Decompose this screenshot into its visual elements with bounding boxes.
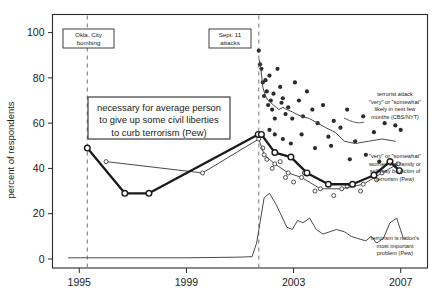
data-point-open [146,191,152,197]
data-point-filled [310,107,314,111]
data-point-filled [281,96,285,100]
y-tick-label: 100 [27,26,45,38]
data-point-filled [329,144,333,148]
data-point-open [286,171,290,175]
data-point-filled [266,103,270,107]
series-annotation: terrorism is nation'smost importantprobl… [371,235,420,256]
y-tick-label: 80 [33,72,45,84]
data-point-filled [383,121,387,125]
data-point-open [292,180,296,184]
data-point-open [85,145,91,151]
data-point-filled [313,146,317,150]
series-layer [69,49,404,258]
event-marker-lines [87,16,258,268]
series-annotation-line: most important [377,243,414,249]
data-point-open [304,170,310,176]
data-point-filled [326,135,330,139]
data-point-filled [278,85,282,89]
data-point-open [318,187,322,191]
data-point-filled [267,128,271,132]
annotation-leader-line [344,118,364,123]
x-tick-label: 1999 [175,276,199,288]
data-point-open [273,162,277,166]
callout-line: to curb terrorism (Pew) [111,127,206,138]
chart-figure: 020406080100 1995199920032007 percent of… [0,0,439,295]
series-annotation-line: months (CBS/NYT) [371,114,419,120]
x-tick-label: 1995 [68,276,92,288]
series-annotation-line: problem (Pew) [377,250,414,256]
data-point-open [313,189,317,193]
series-annotation-line: self may be victim of [370,168,421,174]
data-point-open [350,181,356,187]
data-point-filled [399,128,403,132]
data-point-filled [300,132,304,136]
data-point-filled [297,98,301,102]
data-point-open [262,153,266,157]
data-point-filled [372,130,376,134]
event-marker-box: Okla. Citybombing [63,29,114,48]
event-marker-boxes: Okla. CitybombingSept. 11attacks [63,29,251,48]
event-label-line1: Okla. City [75,31,103,38]
data-point-filled [290,117,294,121]
data-point-filled [293,80,297,84]
series-annotation-line: terrorist attack [377,91,413,97]
data-point-open [332,194,336,198]
y-tick-label: 60 [33,117,45,129]
data-point-filled [286,105,290,109]
data-point-open [361,182,365,186]
data-point-filled [283,112,287,116]
y-tick-label: 40 [33,162,45,174]
data-point-filled [265,89,269,93]
series-annotation-line: "very" or "somewhat" [369,99,421,105]
x-tick-label: 2003 [282,276,306,288]
series-annotation-line: likely in next few [375,106,417,112]
chart-canvas: 020406080100 1995199920032007 percent of… [0,0,439,295]
data-point-filled [271,92,275,96]
callout-line: to give up some civil liberties [99,114,219,125]
data-point-filled [348,157,352,161]
data-point-filled [338,126,342,130]
data-point-filled [332,119,336,123]
event-label-line2: attacks [220,39,240,46]
data-point-filled [275,67,279,71]
data-point-filled [364,153,368,157]
y-axis-label: percent of respondents [5,101,16,198]
data-point-open [201,171,205,175]
y-tick-label: 0 [39,253,45,265]
series-annotation-line: "very" or "somewhat" [369,153,421,159]
data-point-open [300,175,304,179]
event-label-line2: bombing [77,39,101,46]
data-point-open [259,132,265,138]
data-point-filled [289,141,293,145]
series-annotations: terrorist attack"very" or "somewhat"like… [344,91,421,256]
data-point-filled [279,101,283,105]
y-axis-ticks: 020406080100 [27,26,53,264]
data-point-filled [273,132,277,136]
series-annotation-line: worried that family or [368,161,421,167]
data-point-open [270,166,274,170]
data-point-filled [305,89,309,93]
data-point-open [122,191,128,197]
series-annotation-line: terrorism (Pew) [376,176,414,182]
series-annotation-line: terrorism is nation's [371,235,420,241]
data-point-open [278,160,282,164]
data-point-filled [393,123,397,127]
data-point-filled [270,107,274,111]
data-point-filled [361,114,365,118]
data-point-open [284,175,288,179]
data-point-filled [267,74,271,78]
y-tick-label: 20 [33,207,45,219]
callout-annotation: necessary for average personto give up s… [88,97,230,139]
data-point-open [104,160,108,164]
data-point-open [288,154,294,160]
data-point-open [359,189,363,193]
data-point-filled [345,107,349,111]
data-point-filled [321,103,325,107]
series-line [69,193,404,258]
data-point-open [340,187,344,191]
data-point-open [272,150,278,156]
data-point-filled [257,49,261,53]
callout-line: necessary for average person [97,102,221,113]
event-marker-box: Sept. 11attacks [209,29,251,48]
data-point-filled [273,117,277,121]
